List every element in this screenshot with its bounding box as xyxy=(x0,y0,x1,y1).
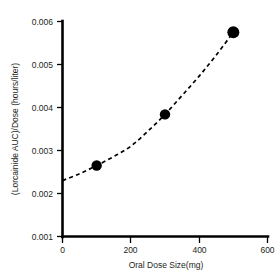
fitted-dashed-curve xyxy=(63,32,234,180)
y-tick-label-0002: 0.002 xyxy=(32,189,54,199)
y-axis-title: (Lorcainide AUC)/Dose (hours/liter) xyxy=(10,63,20,195)
x-axis-title: Oral Dose Size(mg) xyxy=(129,260,204,270)
x-tick-label-600: 600 xyxy=(260,245,274,255)
scatter-plot-canvas: 0.006 0.005 0.004 0.003 0.002 0.001 0 20… xyxy=(0,0,280,280)
data-point-marker xyxy=(91,160,101,170)
chart-figure: 0.006 0.005 0.004 0.003 0.002 0.001 0 20… xyxy=(0,0,280,280)
x-tick-label-400: 400 xyxy=(192,245,206,255)
y-tick-label-0003: 0.003 xyxy=(32,146,54,156)
data-point-marker xyxy=(160,109,170,119)
y-tick-label-0004: 0.004 xyxy=(32,103,54,113)
y-tick-label-0005: 0.005 xyxy=(32,60,54,70)
x-tick-label-0: 0 xyxy=(60,245,65,255)
data-point-markers xyxy=(91,26,239,171)
data-point-marker xyxy=(227,26,239,38)
y-tick-label-0001: 0.001 xyxy=(32,232,54,242)
y-tick-label-0006: 0.006 xyxy=(32,17,54,27)
x-tick-label-200: 200 xyxy=(123,245,137,255)
